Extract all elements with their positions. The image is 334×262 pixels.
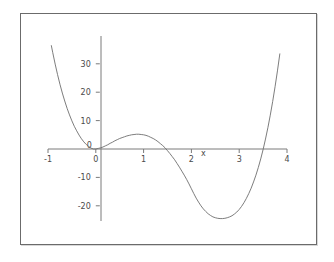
- x-tick-labels: -101234: [44, 155, 290, 164]
- axis-annotations: x: [201, 149, 206, 158]
- x-tick-label: 1: [141, 155, 146, 164]
- y-tick-label: -20: [78, 202, 91, 211]
- plot-figure: -101234 -20-100102030 x: [0, 0, 334, 262]
- x-tick-label: 4: [284, 155, 289, 164]
- y-tick-label: 10: [81, 117, 91, 126]
- y-tick-labels: -20-100102030: [78, 60, 92, 211]
- function-curve: [51, 46, 279, 219]
- y-tick-label: 30: [81, 60, 91, 69]
- y-tick-label: -10: [78, 173, 91, 182]
- y-axis-ticks: [96, 64, 100, 206]
- x-tick-label: 3: [237, 155, 242, 164]
- x-tick-label: 0: [93, 155, 98, 164]
- x-tick-label: -1: [44, 155, 52, 164]
- y-tick-label: 20: [81, 88, 91, 97]
- x-tick-label: 2: [189, 155, 194, 164]
- plot-canvas: -101234 -20-100102030 x: [21, 14, 316, 244]
- x-axis-label: x: [201, 149, 206, 158]
- plot-frame: -101234 -20-100102030 x: [20, 13, 317, 245]
